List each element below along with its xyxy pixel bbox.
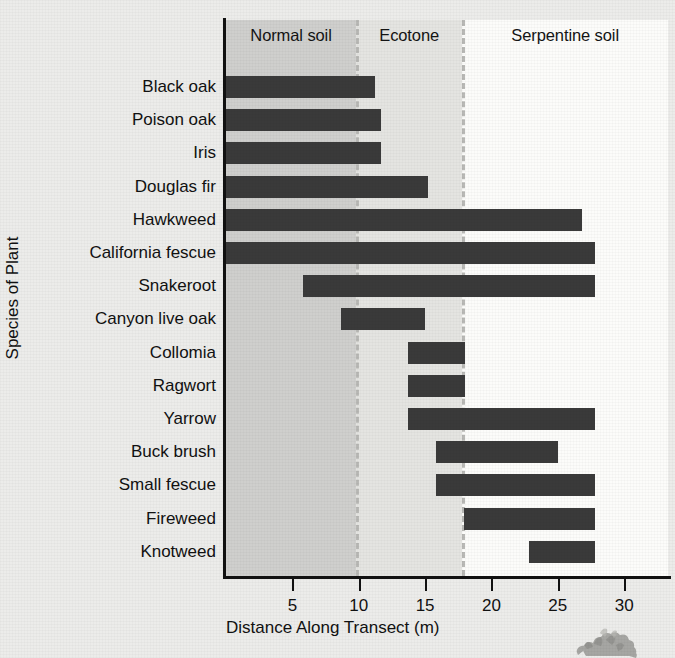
bar-yarrow xyxy=(408,408,595,430)
x-tick-label-20: 20 xyxy=(482,596,501,616)
x-tick-label-10: 10 xyxy=(349,596,368,616)
species-label-knotweed: Knotweed xyxy=(140,541,216,563)
bar-small-fescue xyxy=(436,474,595,496)
zone-divider-1 xyxy=(356,20,359,576)
x-axis-line xyxy=(223,576,671,579)
y-axis-tick-labels: Black oakPoison oakIrisDouglas firHawkwe… xyxy=(20,20,216,576)
x-tick-5 xyxy=(292,579,294,591)
bar-iris xyxy=(226,142,381,164)
y-axis-line xyxy=(223,18,226,578)
species-label-black-oak: Black oak xyxy=(142,76,216,98)
bar-canyon-live-oak xyxy=(341,308,425,330)
x-tick-15 xyxy=(425,579,427,591)
plant-sprite-icon xyxy=(556,622,652,658)
soil-zone-label-normal-soil: Normal soil xyxy=(250,26,331,45)
x-tick-label-25: 25 xyxy=(548,596,567,616)
x-tick-30 xyxy=(624,579,626,591)
species-label-iris: Iris xyxy=(193,142,216,164)
species-label-poison-oak: Poison oak xyxy=(132,109,216,131)
species-label-collomia: Collomia xyxy=(150,342,216,364)
species-label-canyon-live-oak: Canyon live oak xyxy=(95,308,216,330)
soil-zone-band-normal-soil xyxy=(226,20,356,576)
bar-knotweed xyxy=(529,541,595,563)
plot-area: Normal soilEcotoneSerpentine soil 510152… xyxy=(226,20,668,576)
species-label-snakeroot: Snakeroot xyxy=(139,275,217,297)
bar-fireweed xyxy=(464,508,595,530)
x-tick-label-5: 5 xyxy=(288,596,297,616)
species-label-yarrow: Yarrow xyxy=(163,408,216,430)
soil-zone-label-serpentine-soil: Serpentine soil xyxy=(511,26,619,45)
species-label-small-fescue: Small fescue xyxy=(119,474,216,496)
bar-douglas-fir xyxy=(226,176,428,198)
species-label-california-fescue: California fescue xyxy=(89,242,216,264)
species-label-douglas-fir: Douglas fir xyxy=(135,176,216,198)
x-tick-25 xyxy=(558,579,560,591)
x-tick-label-30: 30 xyxy=(615,596,634,616)
bar-buck-brush xyxy=(436,441,558,463)
x-tick-10 xyxy=(359,579,361,591)
species-label-ragwort: Ragwort xyxy=(153,375,216,397)
x-tick-label-15: 15 xyxy=(416,596,435,616)
bar-snakeroot xyxy=(303,275,595,297)
soil-zone-label-ecotone: Ecotone xyxy=(379,26,439,45)
bar-hawkweed xyxy=(226,209,582,231)
species-label-fireweed: Fireweed xyxy=(146,508,216,530)
bar-black-oak xyxy=(226,76,375,98)
species-label-hawkweed: Hawkweed xyxy=(133,209,216,231)
bar-ragwort xyxy=(408,375,465,397)
species-label-buck-brush: Buck brush xyxy=(131,441,216,463)
x-tick-20 xyxy=(491,579,493,591)
bar-poison-oak xyxy=(226,109,381,131)
bar-collomia xyxy=(408,342,465,364)
bar-california-fescue xyxy=(226,242,595,264)
chart-figure: Species of Plant Black oakPoison oakIris… xyxy=(0,0,675,658)
